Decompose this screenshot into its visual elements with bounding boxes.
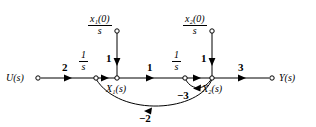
gain-label-output: 3 — [238, 62, 244, 73]
node-ic1-terminal — [115, 29, 119, 33]
gain-label-feedback-outer: −2 — [139, 113, 151, 124]
arrowhead-output-gain — [238, 75, 246, 82]
node-x2 — [210, 76, 214, 80]
ic1-fraction: x₁(0) s — [88, 14, 112, 36]
arrowhead-input-gain — [64, 75, 72, 82]
gain-label-integrator2: 1 s — [172, 50, 181, 72]
node-ic2-terminal — [210, 29, 214, 33]
node-x1 — [115, 76, 119, 80]
gain-label-input: 2 — [62, 62, 68, 73]
node-sum-2 — [183, 76, 187, 80]
integrator2-numerator: 1 — [172, 50, 181, 61]
ic1-denominator: s — [88, 25, 112, 37]
ic2-fraction: x₂(0) s — [183, 14, 207, 36]
arrowhead-ic1 — [114, 58, 121, 66]
output-terminal-label: Y(s) — [279, 73, 295, 83]
arrowhead-ic2 — [209, 58, 216, 66]
node-label-x1: X₁(s) — [106, 84, 126, 94]
integrator2-denominator: s — [172, 61, 181, 73]
ic1-numerator: x₁(0) — [88, 14, 112, 25]
arrowhead-mid-gain — [146, 75, 154, 82]
gain-label-ic1: 1 — [106, 53, 112, 64]
graph-canvas — [0, 0, 316, 127]
node-output-terminal — [270, 76, 274, 80]
integrator1-denominator: s — [79, 61, 88, 73]
arrowhead-integrator1 — [101, 75, 109, 82]
integrator1-numerator: 1 — [79, 50, 88, 61]
node-input-terminal — [36, 76, 40, 80]
input-terminal-label: U(s) — [6, 73, 24, 83]
node-label-x2: X₂(s) — [202, 84, 222, 94]
signal-flow-graph-figure: U(s) Y(s) X₁(s) X₂(s) x₁(0) s x₂(0) s 2 … — [0, 0, 316, 127]
arrowhead-integrator2 — [193, 75, 201, 82]
ic2-denominator: s — [183, 25, 207, 37]
arrowhead-feedback-inner — [193, 84, 201, 91]
node-sum-1 — [94, 76, 98, 80]
gain-label-feedback-inner: −3 — [177, 90, 189, 101]
gain-label-ic2: 1 — [201, 53, 207, 64]
gain-label-integrator1: 1 s — [79, 50, 88, 72]
gain-label-mid: 1 — [147, 62, 153, 73]
ic2-numerator: x₂(0) — [183, 14, 207, 25]
